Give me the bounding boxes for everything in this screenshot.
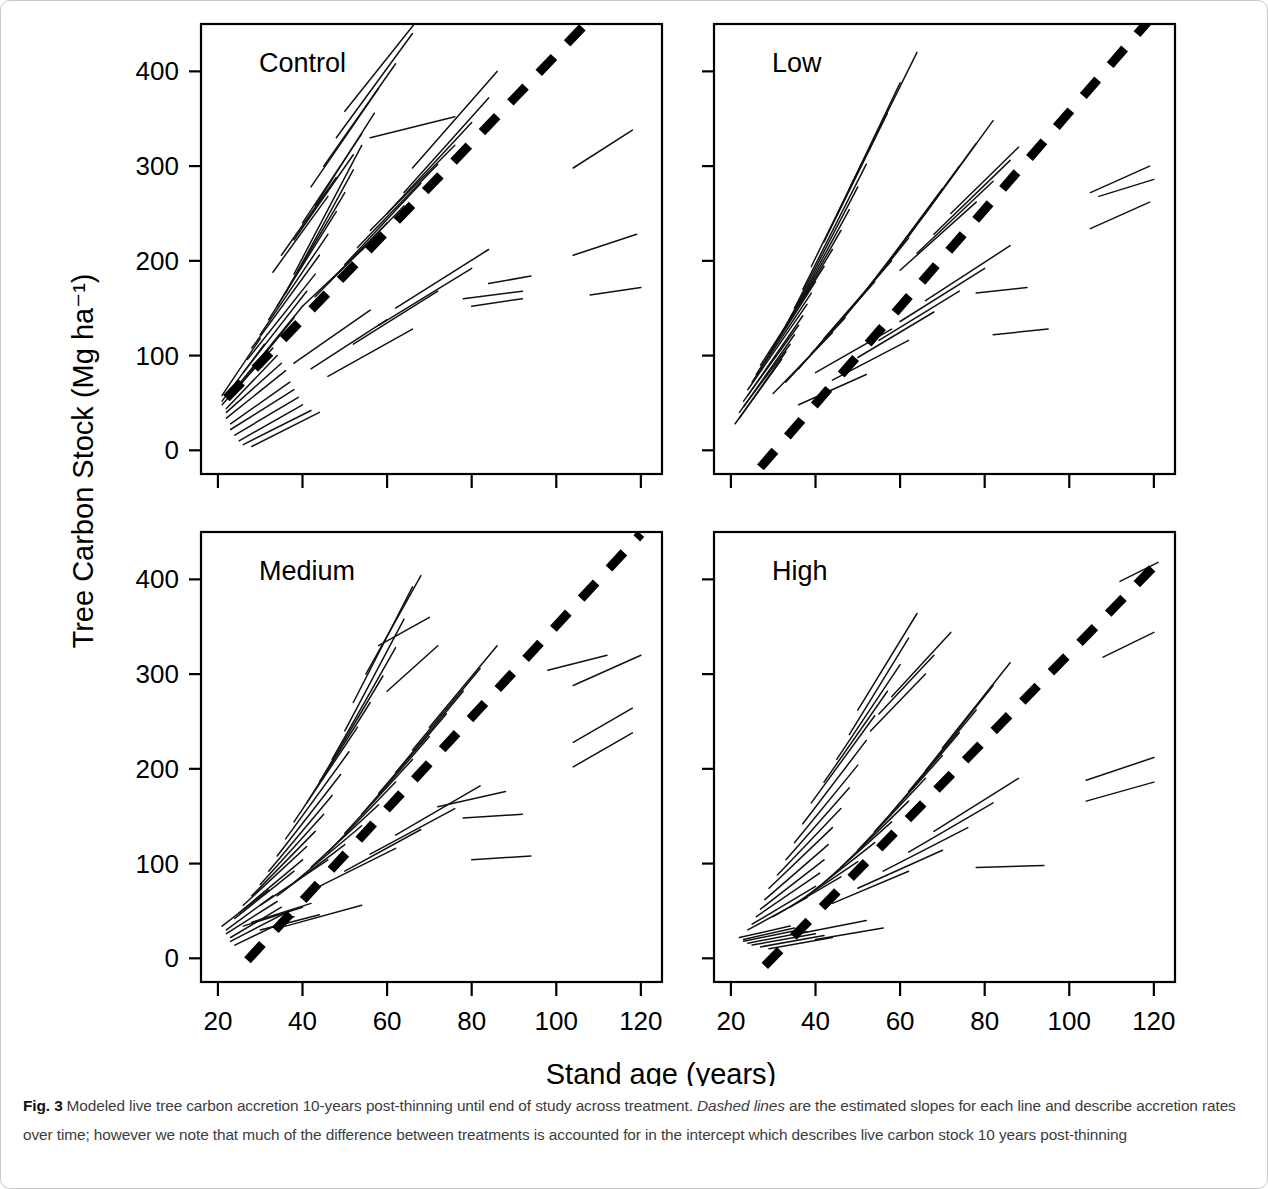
y-axis-tick-label: 400 bbox=[136, 564, 179, 594]
stand-trajectory-line bbox=[841, 801, 909, 867]
stand-trajectory-line bbox=[345, 830, 421, 872]
y-axis-tick-label: 200 bbox=[136, 754, 179, 784]
stand-trajectory-line bbox=[816, 928, 884, 939]
stand-trajectory-line bbox=[548, 655, 607, 670]
stand-trajectory-line bbox=[319, 676, 383, 782]
stand-trajectory-line bbox=[353, 291, 438, 344]
stand-trajectory-line bbox=[934, 778, 1019, 831]
stand-trajectory-line bbox=[307, 703, 371, 803]
caption-text-1: Modeled live tree carbon accretion 10-ye… bbox=[67, 1097, 697, 1114]
stand-trajectory-line bbox=[765, 845, 828, 900]
stand-trajectory-line bbox=[744, 928, 795, 939]
stand-trajectory-line bbox=[777, 809, 841, 875]
stand-trajectory-line bbox=[934, 160, 1010, 234]
y-axis-tick-label: 0 bbox=[165, 943, 179, 973]
x-axis-tick-label: 60 bbox=[886, 1006, 915, 1036]
stand-trajectory-line bbox=[803, 164, 867, 289]
stand-trajectory-line bbox=[226, 356, 277, 409]
y-axis-tick-label: 400 bbox=[136, 56, 179, 86]
caption-emphasis: Dashed lines bbox=[697, 1097, 785, 1114]
x-axis-tick-label: 80 bbox=[970, 1006, 999, 1036]
x-axis-tick-label: 120 bbox=[619, 1006, 662, 1036]
stand-trajectory-line bbox=[761, 860, 825, 909]
panels-root: 0100200300400ControlLow01002003004002040… bbox=[136, 1, 1176, 1036]
panel-high: 20406080100120High bbox=[702, 532, 1176, 1036]
stand-trajectory-line bbox=[799, 375, 867, 405]
stand-trajectory-line bbox=[277, 775, 341, 857]
stand-trajectory-line bbox=[252, 412, 320, 446]
stand-trajectory-line bbox=[358, 164, 438, 247]
stand-trajectory-line bbox=[752, 293, 811, 382]
stand-trajectory-line bbox=[396, 786, 481, 835]
x-axis-tick-label: 20 bbox=[203, 1006, 232, 1036]
stand-trajectory-line bbox=[294, 826, 362, 883]
panel-lines bbox=[739, 562, 1158, 966]
y-axis-tick-label: 300 bbox=[136, 151, 179, 181]
stand-trajectory-line bbox=[332, 648, 396, 760]
stand-trajectory-line bbox=[370, 145, 455, 230]
stand-trajectory-line bbox=[260, 814, 324, 884]
stand-trajectory-line bbox=[926, 246, 1011, 301]
x-axis-tick-label: 40 bbox=[801, 1006, 830, 1036]
y-axis-tick-label: 100 bbox=[136, 849, 179, 879]
stand-trajectory-line bbox=[976, 866, 1044, 868]
stand-trajectory-line bbox=[900, 268, 985, 321]
stand-trajectory-line bbox=[345, 5, 430, 111]
stand-trajectory-line bbox=[336, 34, 412, 138]
estimated-slope-dashed-line bbox=[765, 562, 1158, 966]
figure-number: Fig. 3 bbox=[23, 1097, 63, 1114]
stand-trajectory-line bbox=[769, 828, 832, 889]
stand-trajectory-line bbox=[794, 765, 857, 843]
stand-trajectory-line bbox=[248, 274, 316, 359]
multi-panel-chart: 0100200300400ControlLow01002003004002040… bbox=[1, 1, 1268, 1086]
stand-trajectory-line bbox=[976, 287, 1027, 293]
y-axis-tick-label: 300 bbox=[136, 659, 179, 689]
panel-control: 0100200300400Control bbox=[136, 1, 662, 488]
stand-trajectory-line bbox=[573, 655, 641, 685]
panel-frame bbox=[714, 532, 1175, 982]
stand-trajectory-line bbox=[328, 329, 413, 376]
x-axis-tick-label: 100 bbox=[1048, 1006, 1091, 1036]
stand-trajectory-line bbox=[269, 795, 332, 871]
stand-trajectory-line bbox=[489, 276, 531, 284]
stand-trajectory-line bbox=[438, 792, 506, 807]
stand-trajectory-line bbox=[252, 831, 315, 895]
stand-trajectory-line bbox=[243, 847, 306, 906]
stand-trajectory-line bbox=[926, 686, 994, 771]
stand-trajectory-line bbox=[463, 814, 522, 818]
stand-trajectory-line bbox=[260, 234, 328, 334]
stand-trajectory-line bbox=[429, 646, 497, 728]
panel-lines bbox=[222, 534, 641, 960]
panel-label-high: High bbox=[772, 556, 828, 586]
x-axis-tick-label: 80 bbox=[457, 1006, 486, 1036]
figure-caption: Fig. 3Modeled live tree carbon accretion… bbox=[23, 1091, 1245, 1149]
stand-trajectory-line bbox=[396, 250, 489, 309]
stand-trajectory-line bbox=[328, 206, 404, 284]
y-axis-tick-label: 0 bbox=[165, 435, 179, 465]
stand-trajectory-line bbox=[858, 614, 917, 711]
stand-trajectory-line bbox=[413, 668, 481, 750]
y-axis-tick-label: 200 bbox=[136, 246, 179, 276]
stand-trajectory-line bbox=[926, 121, 994, 214]
stand-trajectory-line bbox=[786, 788, 849, 860]
stand-trajectory-line bbox=[1090, 202, 1149, 229]
stand-trajectory-line bbox=[379, 617, 430, 645]
stand-trajectory-line bbox=[413, 71, 498, 168]
estimated-slope-dashed-line bbox=[248, 534, 641, 960]
figure-plot-area: 0100200300400ControlLow01002003004002040… bbox=[1, 1, 1268, 1086]
stand-trajectory-line bbox=[942, 663, 1010, 748]
stand-trajectory-line bbox=[573, 234, 636, 255]
stand-trajectory-line bbox=[1090, 166, 1149, 193]
x-axis-title: Stand age (years) bbox=[546, 1058, 777, 1086]
stand-trajectory-line bbox=[811, 716, 874, 803]
stand-trajectory-line bbox=[858, 850, 943, 888]
stand-trajectory-line bbox=[786, 210, 849, 326]
stand-trajectory-line bbox=[404, 98, 489, 193]
stand-trajectory-line bbox=[1086, 758, 1154, 781]
panel-low: Low bbox=[702, 5, 1175, 488]
stand-trajectory-line bbox=[472, 299, 523, 307]
stand-trajectory-line bbox=[1103, 632, 1154, 657]
stand-trajectory-line bbox=[748, 304, 807, 389]
x-axis-tick-label: 100 bbox=[535, 1006, 578, 1036]
stand-trajectory-line bbox=[370, 809, 455, 855]
